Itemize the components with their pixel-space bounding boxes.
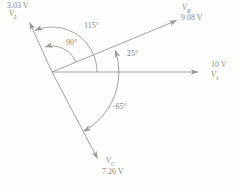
vc-vector: [52, 72, 98, 159]
vl-subscript: L: [14, 14, 17, 20]
phasor-diagram: 3.03 V VL VR 9.08 V 10 V Vs VC 7.26 V 11…: [0, 0, 240, 192]
vr-symbol-label: VR: [182, 4, 191, 12]
vl-vector: [30, 23, 52, 73]
vs-magnitude-label: 10 V: [211, 61, 227, 69]
arc-25deg-minus65deg: [84, 50, 119, 131]
vr-magnitude-label: 9.08 V: [181, 14, 203, 22]
arc-115deg: [35, 27, 97, 72]
angle-115-label: 115°: [84, 22, 99, 30]
angle-90-label: 90°: [66, 39, 77, 47]
arc-90deg: [45, 46, 76, 62]
angle-minus65-label: −65°: [111, 103, 127, 111]
phasor-diagram-canvas: [0, 0, 240, 192]
angle-25-label: 25°: [127, 50, 138, 58]
vc-symbol-label: VC: [106, 157, 115, 165]
vl-symbol-label: VL: [9, 10, 17, 18]
vc-magnitude-label: 7.26 V: [102, 168, 124, 176]
vc-subscript: C: [111, 161, 115, 167]
vs-symbol-label: Vs: [211, 71, 218, 79]
vs-subscript: s: [216, 75, 218, 81]
